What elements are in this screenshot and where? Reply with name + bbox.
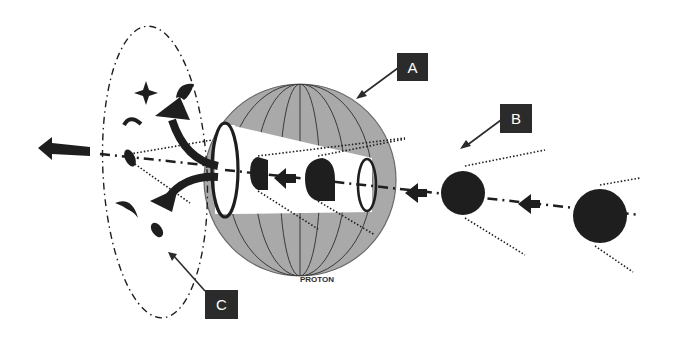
projectile-sphere-far — [573, 189, 627, 243]
projectile-sphere-near — [441, 171, 485, 215]
proton-caption: PROTON — [300, 275, 334, 284]
exit-arrow-left — [38, 137, 90, 160]
callout-a: A — [356, 53, 428, 99]
fragment-crescent-top — [176, 84, 194, 100]
fragment-region-ellipse — [95, 23, 214, 320]
inner-particle-large — [305, 158, 335, 201]
fragment-arc — [124, 119, 141, 125]
proton-collision-diagram: PROTON A B C — [0, 0, 677, 340]
fragment-star — [134, 81, 158, 105]
fragment-crescent-bottom — [115, 201, 138, 218]
fragment-pellet — [148, 221, 165, 240]
inner-particle-half — [250, 157, 268, 190]
callout-b: B — [460, 104, 532, 149]
callout-c: C — [168, 252, 238, 319]
trajectory-arrow-2 — [518, 194, 540, 214]
callout-c-label: C — [216, 296, 227, 313]
callout-a-label: A — [407, 59, 417, 76]
trajectory-arrow-1 — [405, 183, 427, 203]
proton-sphere — [204, 84, 396, 276]
callout-b-label: B — [511, 110, 521, 127]
